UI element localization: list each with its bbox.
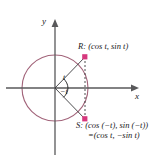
radius-segment-to-s	[55, 88, 85, 119]
point-marker-r	[82, 54, 87, 59]
figure-canvas	[0, 0, 149, 162]
unit-circle-figure: y x t −t R: (cos t, sin t) S: (cos (−t),…	[0, 0, 149, 162]
radius-segment-to-r	[55, 57, 85, 88]
angle-arc-negative-t	[63, 88, 68, 97]
x-axis-arrowhead-icon	[131, 85, 139, 92]
angle-arc-t	[63, 79, 68, 88]
point-marker-s	[82, 116, 87, 121]
y-axis-arrowhead-icon	[52, 19, 59, 27]
